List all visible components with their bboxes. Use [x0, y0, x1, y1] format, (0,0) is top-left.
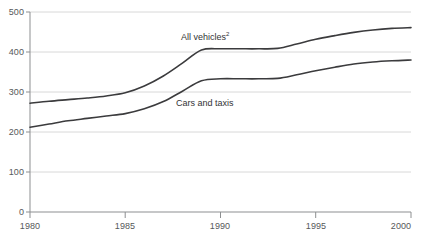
series-label-all-vehicles-text: All vehicles	[181, 32, 226, 42]
x-axis-label-1985: 1985	[105, 221, 145, 231]
y-axis-label-500: 500	[0, 7, 24, 17]
series-label-all-vehicles-footnote-marker: 2	[226, 31, 229, 37]
y-axis-label-100: 100	[0, 167, 24, 177]
series-line-cars-and-taxis	[30, 60, 411, 127]
y-axis-label-400: 400	[0, 47, 24, 57]
x-axis-ticks	[30, 212, 411, 218]
y-axis-label-200: 200	[0, 127, 24, 137]
series-label-cars-and-taxis: Cars and taxis	[176, 98, 234, 108]
y-axis-label-0: 0	[0, 207, 24, 217]
x-axis-label-1990: 1990	[200, 221, 240, 231]
y-axis-label-300: 300	[0, 87, 24, 97]
x-axis-label-1980: 1980	[10, 221, 50, 231]
x-axis-label-2000: 2000	[381, 221, 421, 231]
axis-lines	[30, 12, 411, 212]
x-axis-label-1995: 1995	[296, 221, 336, 231]
series-label-all-vehicles: All vehicles2	[181, 31, 229, 42]
y-axis-ticks	[26, 12, 30, 212]
line-chart: 500 400 300 200 100 0 1980 1985 1990 199…	[0, 0, 421, 245]
